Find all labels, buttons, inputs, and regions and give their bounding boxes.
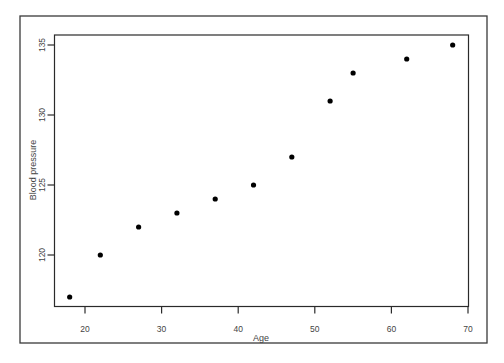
x-tick-label: 60 <box>387 324 397 334</box>
x-tick-label: 30 <box>157 324 167 334</box>
x-tick-label: 50 <box>310 324 320 334</box>
data-point <box>67 294 72 299</box>
data-point <box>328 98 333 103</box>
data-point <box>174 210 179 215</box>
data-point <box>136 224 141 229</box>
y-tick-label: 135 <box>37 38 47 52</box>
data-point <box>213 196 218 201</box>
data-point <box>450 42 455 47</box>
data-point <box>251 182 256 187</box>
y-tick-label: 125 <box>37 178 47 192</box>
x-tick-label: 20 <box>80 324 90 334</box>
x-tick-label: 40 <box>233 324 243 334</box>
data-point <box>351 70 356 75</box>
data-point <box>289 154 294 159</box>
outer-frame <box>20 16 487 343</box>
data-point <box>404 56 409 61</box>
data-points <box>67 42 455 299</box>
y-axis-label: Blood pressure <box>28 140 38 201</box>
scatter-chart: 203040506070 120125130135 Age Blood pres… <box>0 0 504 363</box>
y-axis: 120125130135 <box>37 38 55 262</box>
y-tick-label: 120 <box>37 248 47 262</box>
data-point <box>98 252 103 257</box>
x-axis-label: Age <box>253 333 269 343</box>
plot-area <box>55 35 469 307</box>
y-tick-label: 130 <box>37 108 47 122</box>
x-tick-label: 70 <box>463 324 473 334</box>
x-axis: 203040506070 <box>80 307 473 334</box>
